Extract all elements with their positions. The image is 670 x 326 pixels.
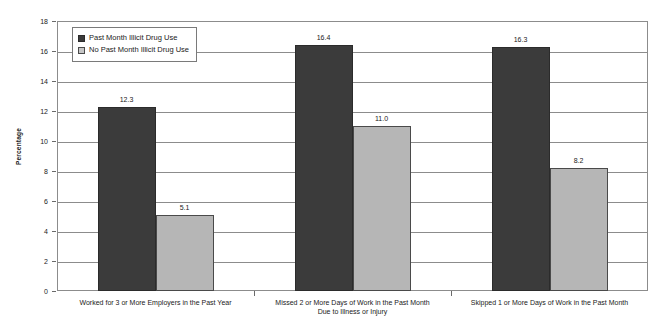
bar xyxy=(550,168,608,291)
category-tick xyxy=(451,291,452,296)
y-tick-mark xyxy=(52,291,56,292)
category-label: Worked for 3 or More Employers in the Pa… xyxy=(57,298,254,307)
legend-item-label: Past Month Illicit Drug Use xyxy=(89,34,177,42)
y-tick-mark xyxy=(52,21,56,22)
y-tick-mark xyxy=(52,171,56,172)
chart-legend: Past Month Illicit Drug Use No Past Mont… xyxy=(72,27,197,62)
y-tick-label: 6 xyxy=(22,198,48,205)
category-tick xyxy=(254,291,255,296)
category-label: Skipped 1 or More Days of Work in the Pa… xyxy=(451,298,648,307)
bar-value-label: 16.4 xyxy=(285,34,363,41)
category-label-line: Due to Illness or Injury xyxy=(254,307,451,316)
bar xyxy=(295,45,353,291)
y-tick-label: 10 xyxy=(22,138,48,145)
bar-value-label: 5.1 xyxy=(146,204,224,211)
dark-swatch-icon xyxy=(78,35,85,42)
category-label-line: Worked for 3 or More Employers in the Pa… xyxy=(57,298,254,307)
y-tick-mark xyxy=(52,51,56,52)
bar xyxy=(492,47,550,292)
y-tick-mark xyxy=(52,111,56,112)
category-label-line: Missed 2 or More Days of Work in the Pas… xyxy=(254,298,451,307)
bar-value-label: 12.3 xyxy=(88,96,166,103)
gridline xyxy=(58,82,647,83)
y-tick-mark xyxy=(52,81,56,82)
y-tick-label: 18 xyxy=(22,18,48,25)
bar xyxy=(353,126,411,291)
y-tick-label: 2 xyxy=(22,258,48,265)
y-tick-mark xyxy=(52,231,56,232)
legend-item-label: No Past Month Illicit Drug Use xyxy=(89,46,189,54)
y-tick-mark xyxy=(52,201,56,202)
bar-value-label: 16.3 xyxy=(482,36,560,43)
y-tick-label: 12 xyxy=(22,108,48,115)
bar-value-label: 8.2 xyxy=(540,157,618,164)
bar-value-label: 11.0 xyxy=(343,115,421,122)
y-tick-label: 14 xyxy=(22,78,48,85)
bar xyxy=(156,215,214,292)
y-tick-label: 4 xyxy=(22,228,48,235)
y-tick-label: 8 xyxy=(22,168,48,175)
light-swatch-icon xyxy=(78,47,85,54)
bar xyxy=(98,107,156,292)
legend-item-past-month-illicit-drug-use: Past Month Illicit Drug Use xyxy=(78,32,189,44)
y-tick-label: 0 xyxy=(22,288,48,295)
category-label: Missed 2 or More Days of Work in the Pas… xyxy=(254,298,451,317)
y-tick-mark xyxy=(52,261,56,262)
y-tick-mark xyxy=(52,141,56,142)
y-tick-label: 16 xyxy=(22,48,48,55)
y-axis-title: Percentage xyxy=(15,112,22,182)
category-label-line: Skipped 1 or More Days of Work in the Pa… xyxy=(451,298,648,307)
legend-item-no-past-month-illicit-drug-use: No Past Month Illicit Drug Use xyxy=(78,44,189,56)
bar-chart: Percentage 024681012141618 12.35.116.411… xyxy=(0,0,670,326)
